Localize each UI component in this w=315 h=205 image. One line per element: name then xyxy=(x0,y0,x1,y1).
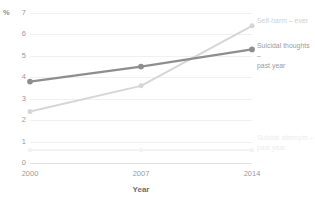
x-axis-tick-labels: 200020072014 xyxy=(30,170,252,182)
data-point xyxy=(138,64,144,70)
series-2 xyxy=(28,148,255,153)
y-tick-7: 7 xyxy=(4,9,26,17)
series-label-0: Self-harm – ever xyxy=(257,16,308,26)
data-point xyxy=(28,109,33,114)
suicidality-trends-line-chart: % 01234567 200020072014 Year Self-harm –… xyxy=(0,0,315,205)
series-label-2: Suicide attempts – past year xyxy=(257,133,314,153)
y-axis-tick-labels: 01234567 xyxy=(0,13,26,163)
series-layer xyxy=(30,13,252,163)
series-1 xyxy=(27,47,255,85)
y-tick-1: 1 xyxy=(4,138,26,146)
y-tick-2: 2 xyxy=(4,116,26,124)
y-tick-3: 3 xyxy=(4,95,26,103)
y-tick-6: 6 xyxy=(4,30,26,38)
data-point xyxy=(250,148,255,153)
data-point xyxy=(250,23,255,28)
series-label-1: Suicidal thoughts – past year xyxy=(257,41,315,71)
y-tick-5: 5 xyxy=(4,52,26,60)
x-tick-2000: 2000 xyxy=(22,170,39,178)
data-point xyxy=(27,79,33,85)
data-point xyxy=(139,148,144,153)
x-tick-2014: 2014 xyxy=(244,170,261,178)
data-point xyxy=(139,83,144,88)
x-tick-2007: 2007 xyxy=(133,170,150,178)
y-tick-0: 0 xyxy=(4,159,26,167)
plot-area xyxy=(30,13,252,163)
x-axis-title: Year xyxy=(30,185,252,194)
data-point xyxy=(249,47,255,53)
y-tick-4: 4 xyxy=(4,73,26,81)
data-point xyxy=(28,148,33,153)
axis-baseline xyxy=(30,163,252,164)
